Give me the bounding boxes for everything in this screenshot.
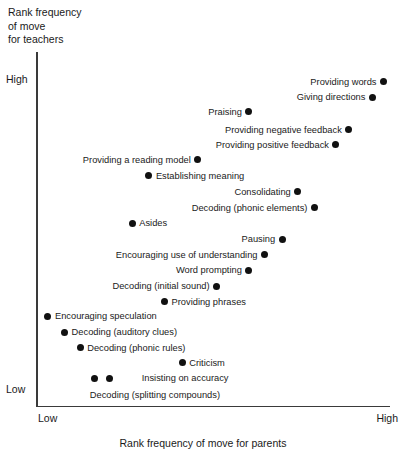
data-point — [294, 188, 301, 195]
data-point — [245, 108, 252, 115]
data-point — [91, 375, 98, 382]
data-point — [161, 298, 168, 305]
data-point — [145, 172, 152, 179]
data-point — [345, 126, 352, 133]
data-point-label: Decoding (initial sound) — [112, 281, 209, 291]
data-point — [179, 359, 186, 366]
data-point-label: Insisting on accuracy — [142, 373, 229, 383]
scatter-chart: Rank frequency of move for teachers High… — [0, 0, 406, 468]
data-point-label: Providing words — [310, 77, 376, 87]
data-point-label: Consolidating — [234, 187, 290, 197]
data-point — [279, 236, 286, 243]
data-point — [261, 251, 268, 258]
data-point-label: Establishing meaning — [156, 171, 244, 181]
data-point — [129, 220, 136, 227]
data-point — [245, 267, 252, 274]
data-point — [77, 344, 84, 351]
data-point-label: Decoding (auditory clues) — [72, 327, 177, 337]
data-point-label: Criticism — [189, 358, 225, 368]
data-point-label: Pausing — [242, 234, 276, 244]
data-point-label: Encouraging speculation — [55, 311, 157, 321]
data-point-label: Encouraging use of understanding — [116, 250, 258, 260]
plot-area: Providing wordsGiving directionsPraising… — [0, 0, 406, 468]
data-point-label: Providing positive feedback — [216, 140, 329, 150]
data-point — [44, 313, 51, 320]
data-point — [380, 78, 387, 85]
data-point-label: Decoding (phonic elements) — [192, 203, 308, 213]
data-point-label: Decoding (phonic rules) — [87, 343, 185, 353]
data-point-label: Praising — [208, 107, 242, 117]
data-point — [332, 141, 339, 148]
data-point-label: Providing negative feedback — [225, 125, 342, 135]
data-point-label: Decoding (splitting compounds) — [90, 390, 220, 400]
data-point — [311, 204, 318, 211]
data-point-label: Providing a reading model — [83, 155, 191, 165]
data-point-label: Giving directions — [297, 92, 366, 102]
data-point — [106, 375, 113, 382]
data-point — [213, 283, 220, 290]
data-point-label: Providing phrases — [172, 297, 246, 307]
data-point — [61, 329, 68, 336]
data-point-label: Word prompting — [176, 265, 242, 275]
data-point — [194, 156, 201, 163]
data-point — [369, 94, 376, 101]
data-point-label: Asides — [139, 218, 167, 228]
